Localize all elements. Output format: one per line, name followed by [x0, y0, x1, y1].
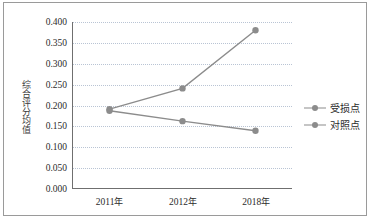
y-tick-label: 0.400	[46, 17, 67, 27]
legend-marker-icon	[304, 103, 326, 113]
y-tick-label: 0.250	[46, 80, 67, 90]
y-tick-label: 0.100	[46, 142, 67, 152]
series-plot	[73, 22, 292, 188]
y-axis-title: 综合评分均值	[18, 61, 34, 153]
y-tick-label: 0.200	[46, 101, 67, 111]
data-point-marker	[106, 108, 112, 114]
y-tick-label: 0.350	[46, 38, 67, 48]
chart-legend: 受损点对照点	[304, 99, 370, 133]
y-tick-label: 0.050	[46, 163, 67, 173]
chart-frame: 综合评分均值 0.4000.3500.3000.2500.2000.1500.1…	[3, 2, 367, 216]
legend-item[interactable]: 对照点	[304, 116, 370, 133]
y-tick-label: 0.300	[46, 59, 67, 69]
series-line	[110, 30, 256, 109]
plot-area: 0.4000.3500.3000.2500.2000.1500.1000.050…	[72, 22, 292, 189]
x-tick-label: 2011年	[96, 195, 124, 208]
y-tick-label: 0.000	[46, 184, 67, 194]
chart-screenshot: 综合评分均值 0.4000.3500.3000.2500.2000.1500.1…	[0, 0, 372, 221]
data-point-marker	[179, 118, 185, 124]
legend-marker-icon	[304, 120, 326, 130]
legend-label: 对照点	[330, 117, 360, 132]
x-tick-label: 2018年	[242, 195, 270, 208]
y-tick-label: 0.150	[46, 121, 67, 131]
data-point-marker	[179, 85, 185, 91]
data-point-marker	[252, 128, 258, 134]
data-point-marker	[252, 27, 258, 33]
x-tick-label: 2012年	[169, 195, 197, 208]
legend-item[interactable]: 受损点	[304, 99, 370, 116]
legend-label: 受损点	[330, 100, 360, 115]
